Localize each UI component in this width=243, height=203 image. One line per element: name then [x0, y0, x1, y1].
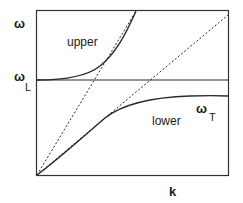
omega-l-symbol: ω [14, 69, 25, 84]
upper-branch-label: upper [67, 35, 98, 49]
x-axis-label: k [169, 184, 177, 199]
shallow-light-line [37, 15, 228, 175]
lower-branch-label: lower [152, 114, 181, 128]
omega-t-subscript: T [209, 111, 216, 123]
dispersion-diagram: ω ω L upper lower ω T k [0, 0, 243, 203]
omega-t-symbol: ω [196, 101, 207, 116]
y-axis-label: ω [14, 16, 25, 31]
omega-l-subscript: L [25, 81, 31, 93]
